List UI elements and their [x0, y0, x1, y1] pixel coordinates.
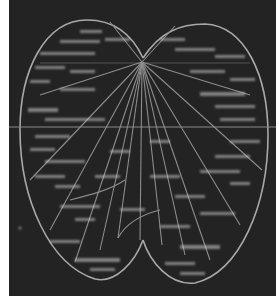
diagram-panel [9, 0, 276, 296]
leaf-diagram [9, 0, 276, 296]
